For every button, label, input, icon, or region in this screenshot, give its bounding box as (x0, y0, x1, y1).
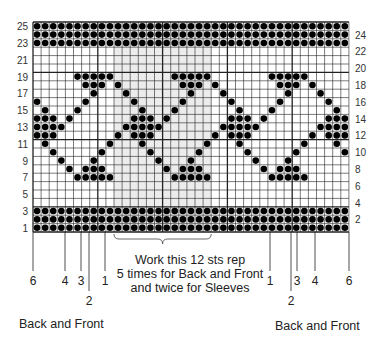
foot-label-right: Back and Front (275, 319, 360, 333)
svg-text:2: 2 (86, 294, 93, 308)
svg-text:6: 6 (355, 181, 361, 192)
svg-text:19: 19 (17, 72, 29, 83)
svg-text:10: 10 (355, 147, 367, 158)
svg-text:13: 13 (17, 122, 29, 133)
svg-text:18: 18 (355, 80, 367, 91)
caption-line-3: and twice for Sleeves (105, 281, 275, 295)
svg-text:8: 8 (355, 164, 361, 175)
svg-text:3: 3 (78, 274, 85, 288)
svg-text:23: 23 (17, 38, 29, 49)
repeat-caption: Work this 12 sts rep 5 times for Back an… (105, 253, 275, 295)
svg-text:20: 20 (355, 63, 367, 74)
svg-text:4: 4 (355, 198, 361, 209)
svg-text:14: 14 (355, 114, 367, 125)
svg-text:16: 16 (355, 97, 367, 108)
svg-text:4: 4 (312, 274, 319, 288)
svg-text:2: 2 (288, 294, 295, 308)
svg-text:7: 7 (22, 172, 28, 183)
svg-text:1: 1 (22, 223, 28, 234)
svg-text:3: 3 (294, 274, 301, 288)
svg-text:9: 9 (22, 156, 28, 167)
caption-line-2: 5 times for Back and Front (105, 267, 275, 281)
svg-text:21: 21 (17, 55, 29, 66)
svg-text:22: 22 (355, 46, 367, 57)
foot-label-left: Back and Front (19, 317, 104, 331)
svg-text:25: 25 (17, 21, 29, 32)
svg-text:3: 3 (22, 206, 28, 217)
svg-text:2: 2 (355, 214, 361, 225)
svg-text:24: 24 (355, 30, 367, 41)
svg-text:15: 15 (17, 105, 29, 116)
svg-text:17: 17 (17, 88, 29, 99)
svg-text:12: 12 (355, 130, 367, 141)
svg-text:4: 4 (62, 274, 69, 288)
svg-text:11: 11 (18, 139, 29, 150)
svg-text:6: 6 (346, 274, 353, 288)
svg-text:6: 6 (30, 274, 37, 288)
caption-line-1: Work this 12 sts rep (105, 253, 275, 267)
svg-text:5: 5 (22, 189, 28, 200)
